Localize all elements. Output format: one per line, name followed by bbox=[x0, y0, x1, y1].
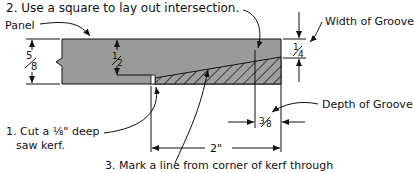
width-of-groove-label: Width of Groove bbox=[325, 15, 414, 28]
step2-label: 2. Use a square to lay out intersection. bbox=[6, 1, 239, 15]
step1-label-line2: saw kerf. bbox=[16, 139, 65, 152]
depth-leader bbox=[272, 102, 318, 112]
svg-text:2: 2 bbox=[117, 58, 123, 68]
depth-of-groove-label: Depth of Groove bbox=[322, 98, 413, 111]
step1-label-line1: 1. Cut a ⅛" deep bbox=[6, 125, 99, 138]
groove-depth-label: 3 8 bbox=[259, 116, 272, 129]
svg-text:8: 8 bbox=[266, 119, 272, 129]
groove-width-label: 1 4 bbox=[293, 42, 304, 59]
panel-leader bbox=[40, 23, 90, 37]
step3-label: 3. Mark a line from corner of kerf throu… bbox=[105, 159, 333, 172]
step1-leader bbox=[104, 87, 157, 133]
panel-thickness-label: 5 8 bbox=[25, 50, 37, 72]
svg-text:5: 5 bbox=[26, 50, 32, 61]
svg-text:4: 4 bbox=[298, 49, 304, 59]
overall-length-label: 2" bbox=[210, 142, 222, 155]
saw-kerf bbox=[151, 75, 155, 84]
svg-text:8: 8 bbox=[31, 61, 37, 72]
groove-layout-diagram: 2. Use a square to lay out intersection.… bbox=[0, 0, 414, 173]
panel-label: Panel bbox=[5, 19, 35, 32]
width-leader bbox=[310, 22, 322, 42]
panel bbox=[56, 39, 281, 84]
